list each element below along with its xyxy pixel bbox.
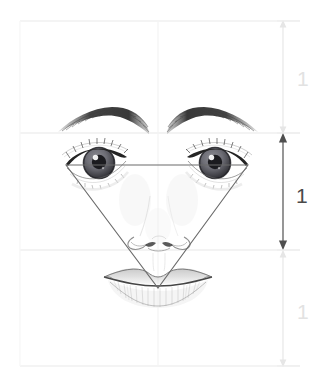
grid-horizontal-lines (20, 21, 300, 366)
right-eye (186, 138, 252, 189)
left-eye (62, 138, 128, 189)
dimension-segment-lower-third (280, 250, 287, 367)
left-eyebrow (58, 107, 149, 134)
right-eyebrow (167, 107, 258, 134)
dimension-label-middle-third: 1 (296, 185, 308, 206)
diagram-svg (0, 0, 321, 386)
dimension-segment-upper-third (280, 20, 287, 134)
dimension-label-upper-third: 1 (297, 68, 309, 89)
dimension-segment-middle-third (279, 133, 287, 250)
proportion-diagram-canvas: 1 1 1 (0, 0, 321, 386)
dimension-label-lower-third: 1 (297, 301, 309, 322)
